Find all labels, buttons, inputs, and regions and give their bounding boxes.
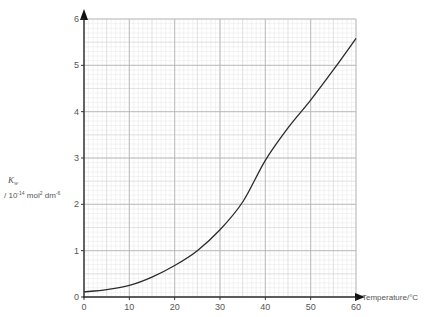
axes	[80, 9, 365, 301]
y-axis-arrow-icon	[80, 9, 88, 20]
y-axis-units-exp3: -6	[56, 190, 61, 196]
x-tick-label: 10	[124, 302, 134, 312]
x-tick-label: 0	[81, 302, 86, 312]
svg-text:Kw: Kw	[7, 175, 18, 186]
y-axis-title: Kw / 10-14 mol2 dm-6	[4, 175, 60, 200]
x-tick-label: 60	[351, 302, 361, 312]
svg-text:/ 10-14 mol2 dm-6: / 10-14 mol2 dm-6	[4, 190, 60, 200]
x-tick-label: 40	[260, 302, 270, 312]
x-tick-label: 30	[215, 302, 225, 312]
kw-temperature-chart: 01020304050600123456 Temperature/°C Kw /…	[0, 0, 428, 317]
x-axis-title: Temperature/°C	[362, 293, 418, 302]
y-axis-subscript: w	[14, 180, 18, 186]
x-tick-label: 50	[306, 302, 316, 312]
y-tick-label: 3	[74, 153, 79, 163]
tick-labels: 01020304050600123456	[74, 14, 361, 312]
y-tick-label: 1	[74, 246, 79, 256]
y-axis-units-mol: mol	[25, 191, 40, 200]
y-tick-label: 4	[74, 107, 79, 117]
y-tick-label: 0	[74, 292, 79, 302]
y-axis-units-prefix: / 10	[4, 191, 18, 200]
y-axis-units-dm: dm	[42, 191, 56, 200]
y-tick-label: 6	[74, 14, 79, 24]
y-tick-label: 2	[74, 199, 79, 209]
x-tick-label: 20	[170, 302, 180, 312]
y-tick-label: 5	[74, 60, 79, 70]
